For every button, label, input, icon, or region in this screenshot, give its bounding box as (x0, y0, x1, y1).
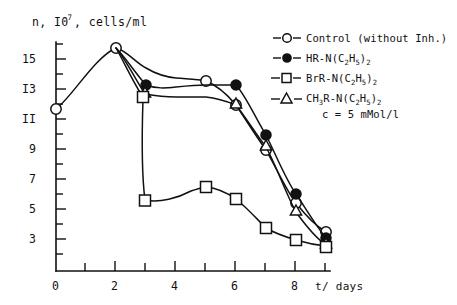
chart-legend: Control (without Inh.) HR-N(C2H5)2 BrR-N… (271, 32, 447, 120)
legend-label-ch3r: CH3R-N(C2H5)2 (306, 92, 382, 107)
x-tick-label-4: 4 (171, 279, 178, 293)
y-tick-label-9: 9 (29, 142, 36, 156)
y-axis-tick-labels: 15 I3 II 9 7 5 3 (22, 52, 36, 246)
y-tick-label-5: 5 (29, 202, 36, 216)
y-tick-label-3: 3 (29, 232, 36, 246)
data-point-brr-d3-bottom (140, 195, 151, 206)
chart-title-exponent: -7 (63, 13, 72, 22)
chart-title-tail: , cells/ml (74, 15, 147, 29)
data-point-brr-d7 (261, 223, 272, 234)
x-tick-label-2: 2 (111, 279, 118, 293)
x-tick-label-8: 8 (291, 279, 298, 293)
legend-item-brr[interactable]: BrR-N(C2H5)2 (271, 72, 377, 87)
y-tick-label-15: 15 (22, 52, 36, 66)
data-point-brr-d9 (321, 242, 332, 253)
filled-circle-icon (283, 54, 291, 62)
legend-label-control: Control (without Inh.) (306, 32, 447, 44)
data-point-brr-d8 (291, 235, 302, 246)
x-tick-label-0: 0 (52, 279, 59, 293)
data-point-hr-d8 (291, 189, 301, 199)
x-axis-label: t/ days (315, 280, 363, 293)
data-point-brr-d5 (201, 182, 212, 193)
chart-svg: n, I0 -7 , cells/ml (0, 0, 457, 305)
data-point-control-d0 (51, 104, 61, 114)
x-axis-tick-labels: 0 2 4 6 8 t/ days (52, 279, 363, 293)
x-axis-ticks (85, 261, 325, 271)
legend-label-brr: BrR-N(C2H5)2 (306, 72, 377, 87)
legend-item-control[interactable]: Control (without Inh.) (273, 32, 447, 44)
chart-figure: n, I0 -7 , cells/ml (0, 0, 457, 305)
data-point-brr-d6 (231, 194, 242, 205)
y-tick-label-13: I3 (22, 82, 36, 96)
x-tick-label-6: 6 (231, 279, 238, 293)
data-point-hr-d6 (231, 80, 241, 90)
legend-label-hr: HR-N(C2H5)2 (306, 52, 371, 67)
series-brr-line-drop (142, 99, 145, 200)
legend-item-hr[interactable]: HR-N(C2H5)2 (273, 52, 371, 67)
y-tick-label-11: II (22, 112, 36, 126)
y-axis-ticks (56, 44, 66, 254)
data-point-brr-d3-top (138, 92, 149, 103)
y-tick-label-7: 7 (29, 172, 36, 186)
chart-title: n, I0 -7 , cells/ml (32, 13, 147, 29)
open-triangle-icon (281, 93, 292, 103)
open-circle-icon (283, 34, 292, 43)
open-square-icon (282, 74, 291, 83)
legend-concentration: c = 5 mMol/l (322, 108, 399, 120)
legend-item-ch3r[interactable]: CH3R-N(C2H5)2 (271, 92, 382, 107)
series-control (51, 43, 331, 237)
